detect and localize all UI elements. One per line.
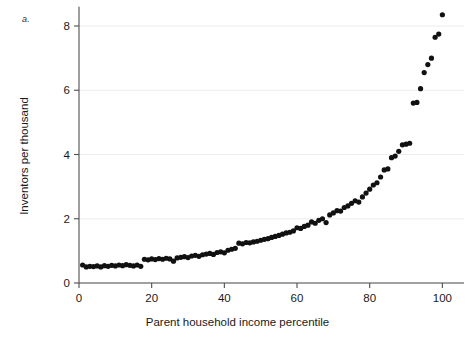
data-point <box>367 187 372 192</box>
data-point <box>138 264 143 269</box>
data-point <box>378 174 383 179</box>
svg-text:20: 20 <box>145 292 158 304</box>
svg-text:80: 80 <box>363 292 376 304</box>
data-point <box>429 56 434 61</box>
data-point <box>323 220 328 225</box>
data-point <box>414 100 419 105</box>
data-point <box>440 12 445 17</box>
x-tick-marks <box>79 283 442 288</box>
data-point <box>436 31 441 36</box>
svg-text:2: 2 <box>64 213 70 225</box>
data-point <box>425 62 430 67</box>
data-point <box>363 190 368 195</box>
svg-text:6: 6 <box>64 84 70 96</box>
data-point <box>396 149 401 154</box>
svg-text:0: 0 <box>76 292 82 304</box>
data-point <box>422 70 427 75</box>
gridlines <box>79 26 464 283</box>
svg-text:40: 40 <box>218 292 231 304</box>
plot-canvas: 02468 020406080100 <box>0 0 475 343</box>
data-point <box>407 141 412 146</box>
x-tick-labels: 020406080100 <box>76 292 452 304</box>
svg-text:4: 4 <box>64 149 71 161</box>
data-point <box>418 86 423 91</box>
data-point <box>356 199 361 204</box>
svg-text:100: 100 <box>433 292 452 304</box>
data-point <box>393 154 398 159</box>
data-point <box>233 246 238 251</box>
data-points <box>80 12 445 269</box>
data-point <box>320 216 325 221</box>
data-point <box>385 166 390 171</box>
data-point <box>360 194 365 199</box>
svg-text:8: 8 <box>64 20 70 32</box>
data-point <box>374 180 379 185</box>
inventors-scatter-figure: a. Inventors per thousand Parent househo… <box>0 0 475 343</box>
svg-text:0: 0 <box>64 277 70 289</box>
y-tick-labels: 02468 <box>64 20 71 289</box>
svg-text:60: 60 <box>291 292 304 304</box>
y-tick-marks <box>74 26 79 283</box>
